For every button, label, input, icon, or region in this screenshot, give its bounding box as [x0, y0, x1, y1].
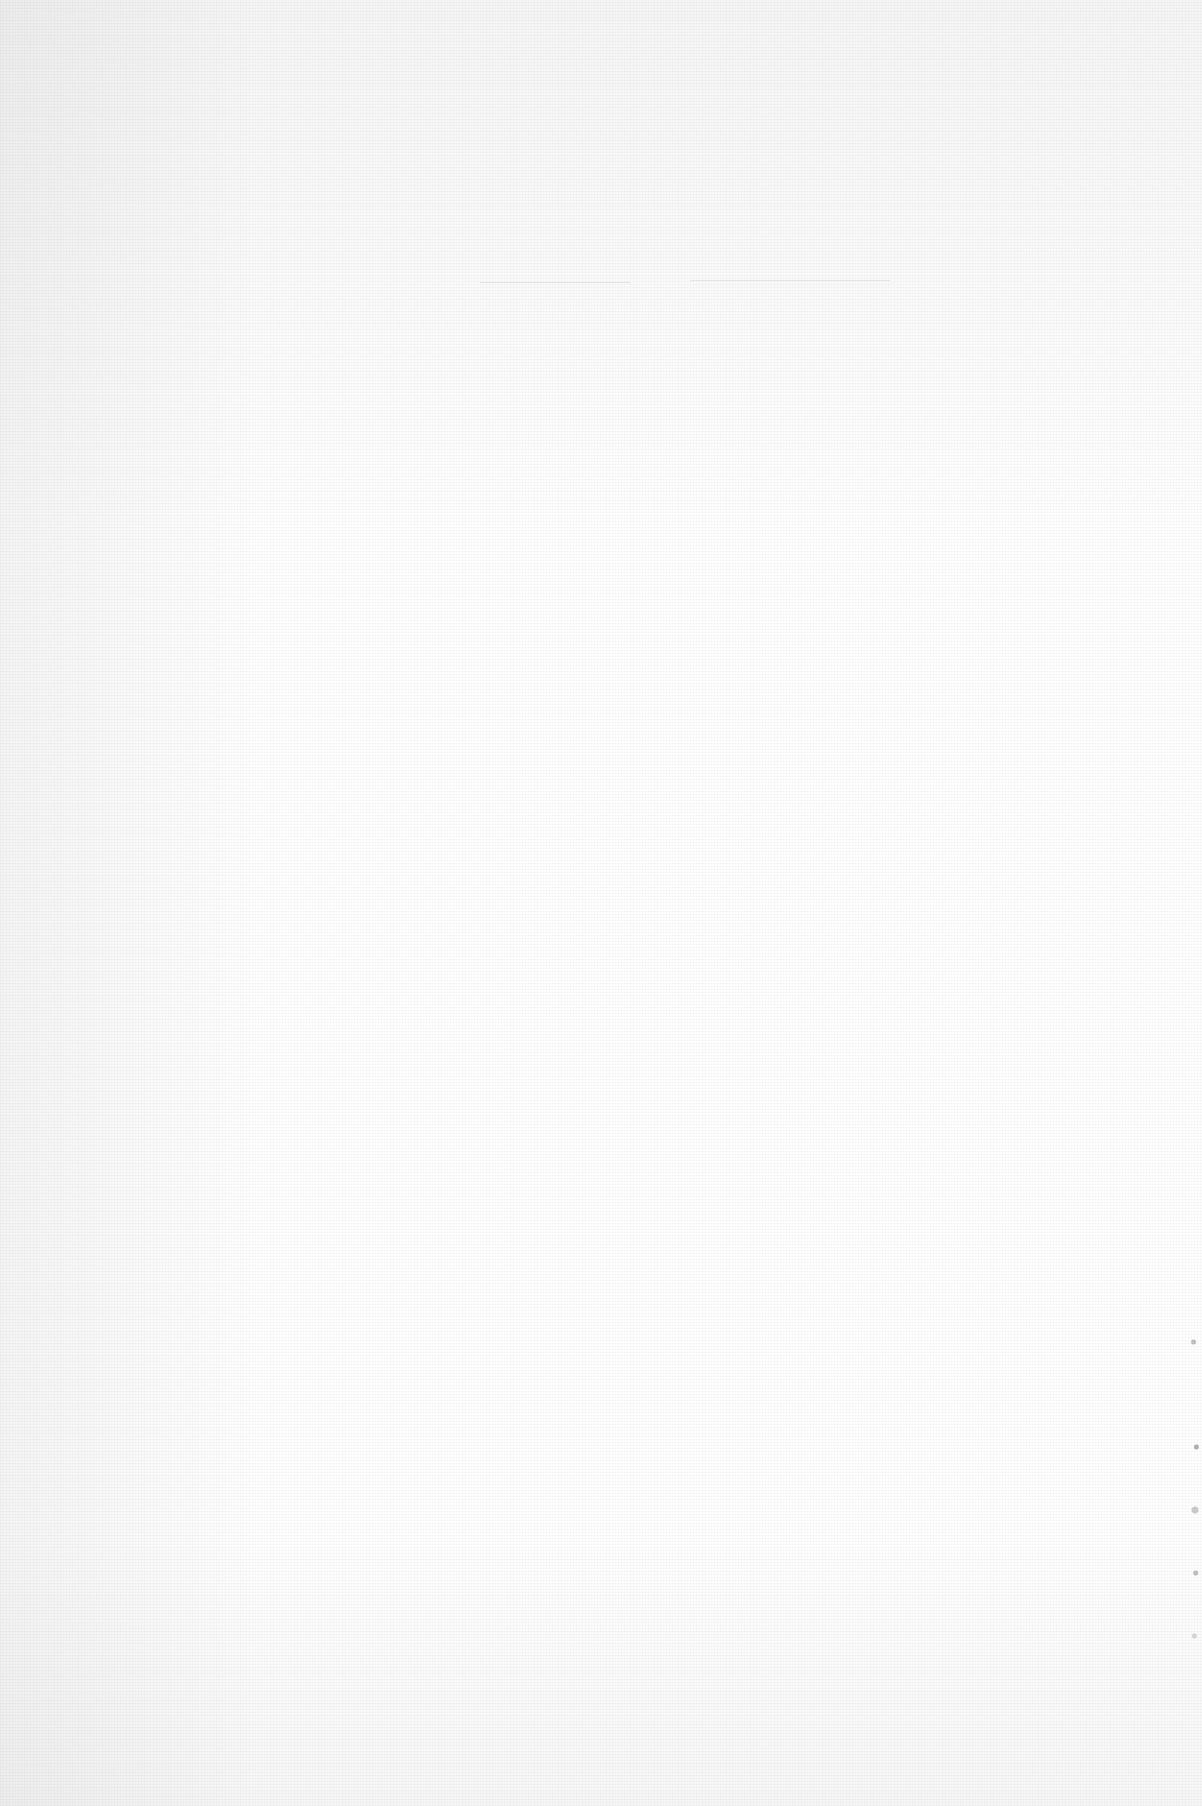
edge-speckle-artifact: [1188, 1300, 1202, 1720]
scan-artifact-line: [690, 280, 890, 281]
blank-scanned-page: [0, 0, 1202, 1806]
scan-artifact-line: [480, 282, 630, 283]
